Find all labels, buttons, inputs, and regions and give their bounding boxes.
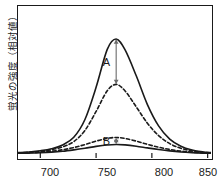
arrow-head-down — [114, 80, 119, 84]
x-tick-label-2: 800 — [155, 166, 173, 178]
x-tick-label-0: 700 — [41, 166, 59, 178]
series-upper-dashed — [18, 84, 211, 152]
chart-figure: 蛍光の強度（相対値） AB 700 750 800 850 — [0, 0, 219, 188]
annotation-label-b: B — [103, 135, 110, 147]
x-tick-label-3: 850 — [199, 166, 217, 178]
chart-canvas: AB — [18, 6, 211, 158]
series-upper-solid — [18, 39, 211, 153]
plot-area: AB — [17, 5, 213, 160]
annotation-label-a: A — [103, 56, 111, 68]
annotation-a: A — [103, 40, 119, 84]
x-tick-label-1: 750 — [98, 166, 116, 178]
